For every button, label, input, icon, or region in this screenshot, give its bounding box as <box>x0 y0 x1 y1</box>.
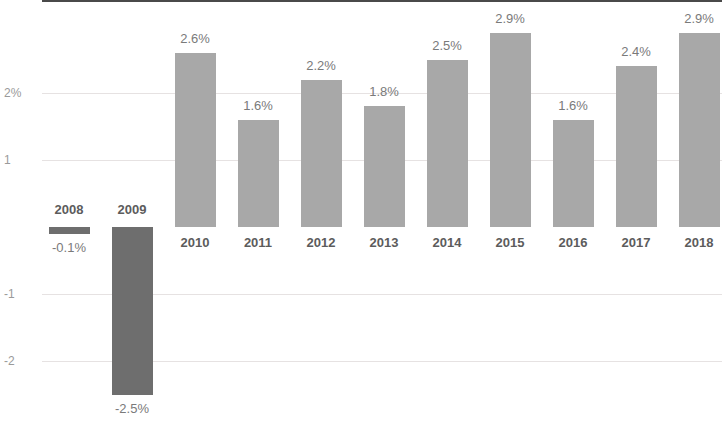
value-label-2012: 2.2% <box>281 59 361 73</box>
bar-2011 <box>238 120 279 227</box>
y-axis-tick-label: 2% <box>4 87 38 99</box>
bar-2009 <box>112 227 153 395</box>
value-label-2014: 2.5% <box>407 39 487 53</box>
value-label-2010: 2.6% <box>155 32 235 46</box>
bar-2018 <box>679 33 720 227</box>
bar-2014 <box>427 60 468 228</box>
category-label-2009: 2009 <box>92 203 172 217</box>
value-label-2009: -2.5% <box>92 402 172 416</box>
y-axis-tick-label: 1 <box>4 154 38 166</box>
bar-2017 <box>616 66 657 227</box>
bar-2016 <box>553 120 594 227</box>
bar-2012 <box>301 80 342 227</box>
value-label-2011: 1.6% <box>218 99 298 113</box>
bar-2010 <box>175 53 216 227</box>
plot-area: 2%1-1-2 -0.1%-2.5%2.6%1.6%2.2%1.8%2.5%2.… <box>0 0 725 425</box>
value-label-2018: 2.9% <box>659 12 725 26</box>
bar-2015 <box>490 33 531 227</box>
bar-2008 <box>49 227 90 234</box>
y-axis-tick-label: -1 <box>4 288 38 300</box>
value-label-2008: -0.1% <box>29 241 109 255</box>
value-label-2015: 2.9% <box>470 12 550 26</box>
value-label-2017: 2.4% <box>596 45 676 59</box>
bar-chart: 2%1-1-2 -0.1%-2.5%2.6%1.6%2.2%1.8%2.5%2.… <box>0 0 725 425</box>
category-label-2018: 2018 <box>659 236 725 250</box>
value-label-2016: 1.6% <box>533 99 613 113</box>
y-axis-tick-label: -2 <box>4 355 38 367</box>
zero-axis-line <box>42 0 722 2</box>
bar-2013 <box>364 106 405 227</box>
value-label-2013: 1.8% <box>344 85 424 99</box>
